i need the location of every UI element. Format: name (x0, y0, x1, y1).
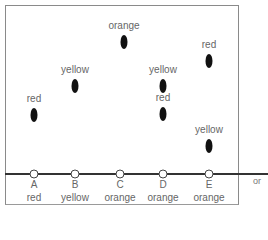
column-color-name: orange (104, 193, 135, 203)
point-label: yellow (61, 65, 89, 75)
data-point (206, 139, 213, 153)
data-point (31, 108, 38, 122)
data-point (206, 54, 213, 68)
axis-node-e (205, 170, 214, 179)
point-label: red (202, 40, 216, 50)
column-color-name: yellow (61, 193, 89, 203)
column-letter: A (31, 180, 38, 190)
column-letter: E (206, 180, 213, 190)
axis-node-a (30, 170, 39, 179)
data-point (160, 79, 167, 93)
point-label: red (156, 93, 170, 103)
data-point (160, 107, 167, 121)
baseline-axis (5, 173, 268, 175)
axis-node-d (159, 170, 168, 179)
axis-node-b (71, 170, 80, 179)
data-point (72, 79, 79, 93)
point-label: orange (108, 21, 139, 31)
axis-node-c (116, 170, 125, 179)
column-color-name: orange (193, 193, 224, 203)
column-color-name: red (27, 193, 41, 203)
point-label: red (27, 94, 41, 104)
column-letter: B (72, 180, 79, 190)
point-label: yellow (195, 125, 223, 135)
column-letter: D (159, 180, 166, 190)
or-text: or (253, 177, 261, 186)
column-letter: C (116, 180, 123, 190)
column-color-name: orange (147, 193, 178, 203)
point-label: yellow (149, 65, 177, 75)
data-point (121, 35, 128, 49)
